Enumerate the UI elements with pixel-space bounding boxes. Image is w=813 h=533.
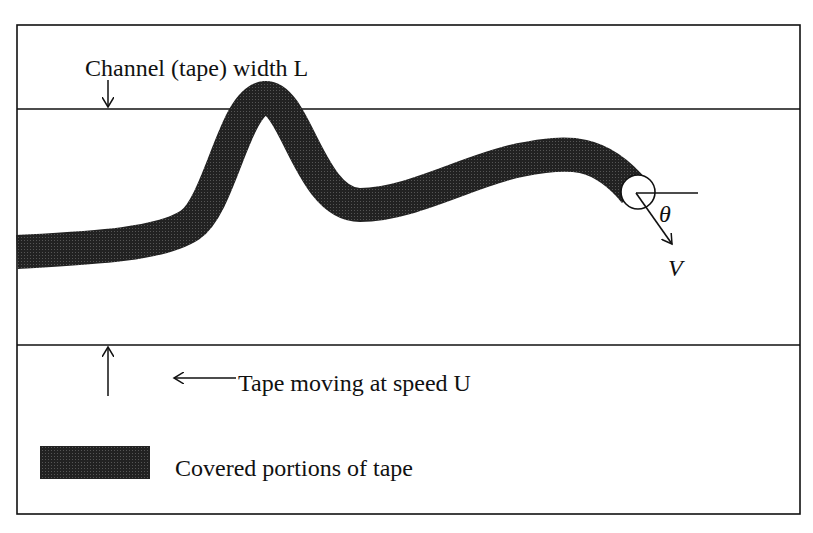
- velocity-label: V: [668, 256, 683, 280]
- channel-width-label: Channel (tape) width L: [85, 56, 308, 80]
- legend-label: Covered portions of tape: [175, 456, 413, 480]
- head-circle: [621, 175, 655, 209]
- diagram: Channel (tape) width L Tape moving at sp…: [0, 0, 813, 533]
- covered-tape-path: [17, 98, 635, 252]
- tape-motion-label: Tape moving at speed U: [238, 371, 471, 395]
- legend-swatch: [40, 446, 150, 479]
- theta-label: θ: [659, 202, 671, 226]
